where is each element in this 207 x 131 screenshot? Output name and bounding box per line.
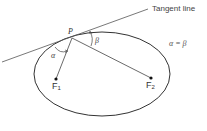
- focus2-label: F2: [146, 81, 155, 90]
- ellipse: [34, 32, 170, 116]
- alpha-equals-beta-label: α = β: [169, 40, 187, 48]
- beta-arc: [90, 32, 92, 46]
- angle-alpha-label: α: [51, 52, 55, 60]
- ellipse-diagram: [0, 0, 207, 131]
- line-p-to-f2: [72, 38, 151, 78]
- focus1-subscript: 1: [58, 85, 61, 91]
- point-p-label: P: [68, 28, 73, 36]
- tangent-line-label: Tangent line: [152, 5, 195, 13]
- tangent-line: [2, 9, 148, 62]
- alpha-arc: [55, 47, 67, 52]
- line-p-to-f1: [56, 38, 72, 79]
- focus2-subscript: 2: [152, 84, 155, 90]
- focus1-label: F1: [52, 82, 61, 91]
- angle-beta-label: β: [95, 37, 99, 45]
